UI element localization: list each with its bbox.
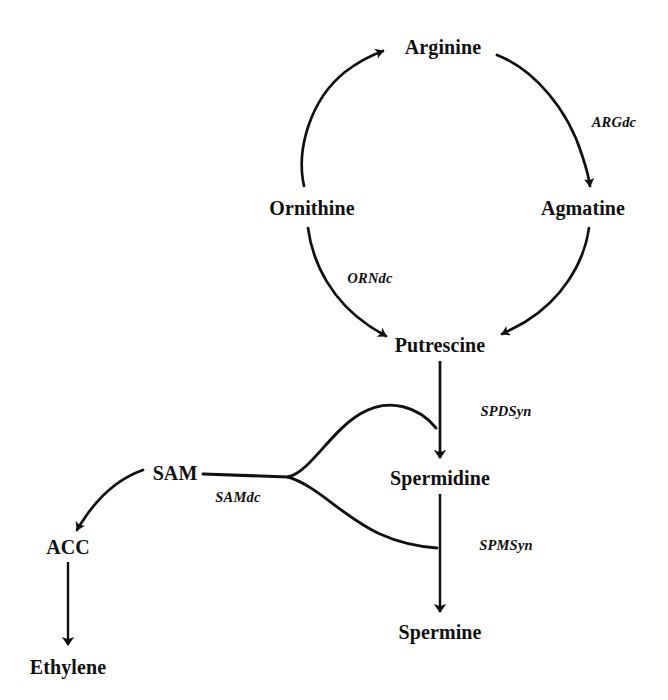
node-agmatine: Agmatine [541,198,625,218]
edge-sam-to-acc [77,470,143,530]
enzyme-samdc: SAMdc [215,490,260,505]
node-acc: ACC [46,537,90,557]
node-sam: SAM [153,463,198,483]
edge-ornithine-to-arginine [302,51,383,186]
edge-sam-stem [203,474,288,477]
node-putrescine: Putrescine [395,335,486,355]
node-ornithine: Ornithine [269,198,354,218]
edge-agmatine-to-putrescine [502,228,589,334]
enzyme-argdc: ARGdc [592,115,637,130]
edge-arginine-to-agmatine [497,55,590,186]
node-arginine: Arginine [405,37,481,57]
enzyme-spdsyn: SPDSyn [480,404,531,419]
enzyme-spmsyn: SPMSyn [479,538,533,553]
node-ethylene: Ethylene [30,657,106,677]
node-spermidine: Spermidine [390,468,490,488]
enzyme-orndc: ORNdc [347,271,392,286]
pathway-diagram: Arginine Ornithine Agmatine Putrescine S… [0,0,668,700]
node-spermine: Spermine [398,622,481,642]
pathway-edges-layer [0,0,668,700]
